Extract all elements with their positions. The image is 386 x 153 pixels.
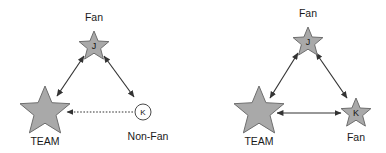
left-edge-j-team (57, 56, 84, 96)
left-diagram: TEAM J Fan K Non-Fan (20, 11, 169, 147)
right-top-letter: J (306, 37, 311, 47)
right-team-node[interactable]: TEAM (234, 86, 284, 147)
left-nonfan-letter: K (140, 108, 146, 117)
left-team-star-icon (20, 86, 70, 133)
right-fan-letter: K (353, 108, 359, 118)
left-top-letter: J (92, 41, 97, 51)
relationship-diagram-canvas: TEAM J Fan K Non-Fan TEAM (0, 0, 386, 153)
left-nonfan-node[interactable]: K Non-Fan (128, 104, 169, 142)
right-team-label: TEAM (244, 135, 273, 147)
left-top-node[interactable]: J Fan (79, 11, 109, 59)
right-top-fan-label: Fan (299, 7, 317, 19)
right-diagram: TEAM J Fan K Fan (234, 7, 371, 147)
right-fan-label: Fan (347, 131, 365, 143)
right-edge-j-k (316, 53, 347, 98)
right-top-node[interactable]: J Fan (293, 7, 323, 55)
left-team-node[interactable]: TEAM (20, 86, 70, 147)
right-edge-j-team (270, 53, 298, 98)
right-fan-node[interactable]: K Fan (341, 98, 371, 143)
left-nonfan-label: Non-Fan (128, 130, 169, 142)
figure-root: TEAM J Fan K Non-Fan TEAM (0, 0, 386, 153)
right-team-star-icon (234, 86, 284, 133)
left-team-label: TEAM (30, 135, 59, 147)
left-edge-j-k (104, 56, 134, 97)
left-top-fan-label: Fan (85, 11, 103, 23)
